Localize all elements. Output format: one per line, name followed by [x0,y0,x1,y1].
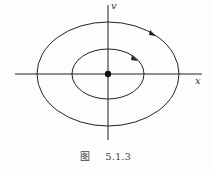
origin-dot [105,71,111,77]
outer-orbit-arrow-icon [149,30,156,36]
phase-portrait [0,0,211,172]
x-axis-label: x [195,75,201,86]
figure-canvas: v x 图 5.1.3 [0,0,211,172]
inner-orbit-arrow-icon [131,55,138,61]
caption-number: 5.1.3 [105,151,130,162]
caption-prefix: 图 [80,151,90,162]
figure-caption: 图 5.1.3 [0,148,211,163]
v-axis-label: v [111,0,117,11]
